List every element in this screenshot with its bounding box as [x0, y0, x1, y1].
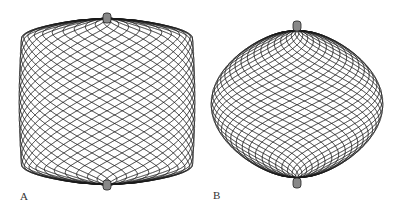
mesh-illustration: [0, 0, 400, 214]
hub-top-a: [103, 13, 111, 23]
panel-label-a: A: [20, 190, 28, 202]
panel-label-b: B: [213, 189, 220, 201]
hub-top-b: [293, 21, 301, 31]
hub-bottom-a: [103, 180, 111, 190]
mesh-b: [211, 30, 383, 178]
figure: A B: [0, 0, 400, 214]
hub-bottom-b: [293, 178, 301, 188]
mesh-a: [19, 18, 195, 185]
